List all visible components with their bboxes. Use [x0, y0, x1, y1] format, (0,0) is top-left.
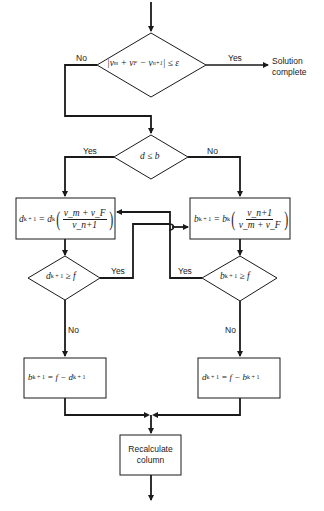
edge-label-d-ge-f-no: No: [68, 325, 79, 335]
recalculate-column-box: Recalculate column: [120, 444, 181, 466]
edge-label-b-ge-f-yes: Yes: [178, 266, 192, 276]
edge-label-d-le-b-yes: Yes: [83, 146, 97, 156]
d-ge-f-label: dk + 1 ≥ f: [46, 271, 76, 281]
edge-label-top-no: No: [76, 53, 87, 63]
edge-label-d-le-b-no: No: [207, 146, 218, 156]
solution-complete-terminal: Solution complete: [272, 56, 307, 78]
update-b-formula: bk + 1 = bk ( v_n+1v_m + v_F ): [194, 204, 289, 234]
set-d-formula: dk + 1 = f − bk + 1: [202, 372, 259, 382]
edge-label-d-ge-f-yes: Yes: [111, 266, 125, 276]
edge-label-top-yes: Yes: [228, 53, 242, 63]
d-le-b-label: d ≤ b: [140, 151, 159, 161]
b-ge-f-label: bk + 1 ≥ f: [220, 271, 250, 281]
update-d-formula: dk + 1 = dk ( v_m + v_Fv_n+1 ): [19, 204, 114, 234]
edge-label-b-ge-f-no: No: [225, 325, 236, 335]
convergence-condition-label: |vm + vF − vn+1 | ≤ ε: [107, 58, 179, 68]
set-b-formula: bk + 1 = f − dk + 1: [28, 372, 85, 382]
